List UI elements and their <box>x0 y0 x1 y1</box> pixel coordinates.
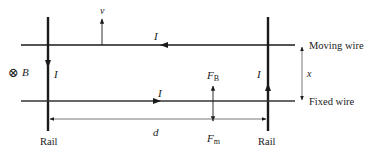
current-arrow-left-icon <box>45 60 51 68</box>
rail-circuit-diagram: v I I ⊗ B I I FB Fm d x Moving wire Fixe… <box>0 0 371 154</box>
mechanical-force-label: Fm <box>206 132 221 146</box>
current-arrow-top-icon <box>160 42 168 48</box>
distance-x-label: x <box>306 68 312 79</box>
current-label-right: I <box>256 68 262 80</box>
current-label-left: I <box>53 68 59 80</box>
current-label-top: I <box>153 30 159 42</box>
right-rail-label: Rail <box>258 136 276 147</box>
magnetic-force-label: FB <box>206 69 219 83</box>
moving-wire-label: Moving wire <box>309 40 364 51</box>
current-arrow-right-icon <box>265 83 271 91</box>
velocity-label: v <box>100 5 105 16</box>
left-rail-label: Rail <box>40 136 58 147</box>
current-label-bottom: I <box>157 87 163 99</box>
fixed-wire-label: Fixed wire <box>309 96 355 107</box>
field-label: B <box>22 66 29 78</box>
field-into-page-icon: ⊗ <box>8 65 19 80</box>
distance-d-label: d <box>153 126 159 138</box>
